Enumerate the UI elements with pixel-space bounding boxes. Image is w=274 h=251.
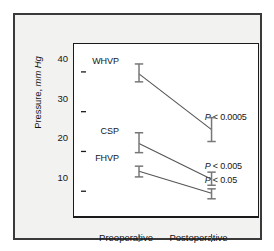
x-tick-labels: PreoperativePostoperative bbox=[73, 224, 259, 242]
x-tick-label-preoperative: Preoperative bbox=[99, 232, 153, 243]
pvalue-label-fhvp: P < 0.05 bbox=[205, 175, 237, 185]
figure-panel: Pressure, mm Hg 10203040 PreoperativePos… bbox=[13, 13, 262, 240]
y-tick-label: 40 bbox=[42, 54, 68, 64]
figure: Pressure, mm Hg 10203040 PreoperativePos… bbox=[0, 0, 274, 251]
series-label-fhvp: FHVP bbox=[95, 153, 119, 163]
series-label-csp: CSP bbox=[101, 126, 119, 136]
y-axis-title-plain: Pressure, bbox=[32, 89, 43, 129]
pvalue-label-csp: P < 0.005 bbox=[205, 161, 242, 171]
pvalue-value: < 0.05 bbox=[211, 175, 237, 185]
y-tick-label: 10 bbox=[42, 173, 68, 183]
y-tick-label: 20 bbox=[42, 133, 68, 143]
series-label-whvp: WHVP bbox=[92, 56, 119, 66]
x-tick-label-postoperative: Postoperative bbox=[170, 232, 228, 243]
pvalue-label-whvp: P < 0.0005 bbox=[205, 112, 247, 122]
y-tick-labels: 10203040 bbox=[42, 15, 68, 251]
y-tick-label: 30 bbox=[42, 94, 68, 104]
y-axis-title-italic: mm Hg bbox=[32, 56, 43, 86]
y-axis-title: Pressure, mm Hg bbox=[32, 33, 43, 153]
pvalue-value: < 0.005 bbox=[211, 161, 242, 171]
pvalue-value: < 0.0005 bbox=[211, 112, 247, 122]
